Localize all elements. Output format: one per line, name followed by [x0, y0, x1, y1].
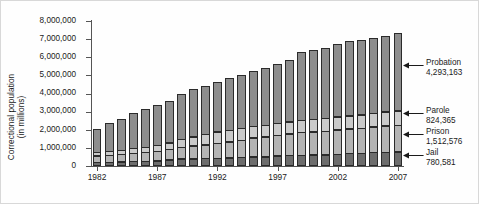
- y-tick-label: 1,000,000: [1, 144, 83, 152]
- bar-1986[interactable]: [141, 110, 150, 166]
- y-tick-label: 0: [1, 162, 83, 170]
- bar-segment-probation: [261, 68, 270, 125]
- bar-segment-parole: [237, 128, 246, 141]
- bar-1997[interactable]: [273, 64, 282, 166]
- bar-segment-parole: [273, 123, 282, 136]
- bar-segment-probation: [285, 60, 294, 122]
- bar-segment-prison: [333, 130, 342, 155]
- bar-1998[interactable]: [285, 61, 294, 166]
- bar-segment-jail: [381, 152, 390, 166]
- bar-segment-parole: [297, 120, 306, 133]
- bar-segment-prison: [225, 142, 234, 158]
- x-tick-mark: [278, 167, 279, 171]
- bar-segment-jail: [249, 157, 258, 166]
- bar-segment-jail: [105, 162, 114, 166]
- bar-segment-jail: [93, 162, 102, 166]
- bar-segment-parole: [201, 134, 210, 145]
- bar-1983[interactable]: [105, 124, 114, 166]
- bar-segment-jail: [237, 157, 246, 166]
- bar-1993[interactable]: [225, 79, 234, 166]
- bar-segment-probation: [141, 109, 150, 147]
- bar-segment-jail: [345, 153, 354, 166]
- bar-1992[interactable]: [213, 82, 222, 166]
- bar-segment-jail: [225, 158, 234, 166]
- bar-segment-parole: [357, 115, 366, 129]
- x-tick-mark: [338, 167, 339, 171]
- bar-segment-prison: [381, 126, 390, 153]
- bar-segment-prison: [261, 137, 270, 157]
- annotation-arrow-parole: [403, 110, 424, 117]
- bar-segment-parole: [261, 125, 270, 137]
- bar-segment-jail: [165, 160, 174, 166]
- bar-segment-jail: [129, 161, 138, 166]
- annotation-prison: Prison1,512,576: [426, 127, 462, 146]
- bar-segment-probation: [273, 64, 282, 124]
- bar-1990[interactable]: [189, 90, 198, 166]
- bar-2006[interactable]: [381, 36, 390, 166]
- bar-segment-parole: [394, 111, 403, 126]
- bar-segment-prison: [249, 138, 258, 158]
- bar-segment-probation: [189, 89, 198, 137]
- bar-segment-probation: [369, 38, 378, 113]
- bar-segment-prison: [165, 149, 174, 160]
- y-tick-label: 3,000,000: [1, 107, 83, 115]
- bar-segment-probation: [153, 105, 162, 146]
- annotation-name: Parole: [426, 106, 456, 116]
- bar-segment-parole: [321, 118, 330, 131]
- bar-segment-jail: [141, 161, 150, 166]
- annotation-name: Prison: [426, 127, 462, 137]
- bar-segment-jail: [394, 152, 403, 166]
- y-tick-label: 8,000,000: [1, 17, 83, 25]
- bar-segment-prison: [309, 132, 318, 156]
- bar-2003[interactable]: [345, 42, 354, 166]
- annotation-probation: Probation4,293,163: [426, 58, 462, 77]
- bar-segment-parole: [249, 126, 258, 138]
- bar-1991[interactable]: [201, 86, 210, 166]
- x-tick-mark: [398, 167, 399, 171]
- bar-segment-jail: [213, 158, 222, 166]
- bar-segment-parole: [285, 122, 294, 135]
- bar-segment-jail: [177, 159, 186, 166]
- bar-segment-probation: [381, 36, 390, 113]
- bar-segment-probation: [165, 101, 174, 144]
- bar-1995[interactable]: [249, 72, 258, 166]
- bar-segment-parole: [225, 130, 234, 142]
- bar-2005[interactable]: [369, 39, 378, 166]
- bar-1987[interactable]: [153, 106, 162, 166]
- bar-series-group: [91, 21, 404, 166]
- bar-1984[interactable]: [117, 120, 126, 166]
- bar-2000[interactable]: [309, 51, 318, 166]
- bar-segment-prison: [297, 132, 306, 155]
- bar-segment-probation: [309, 50, 318, 119]
- y-tick-label: 5,000,000: [1, 71, 83, 79]
- bar-1989[interactable]: [177, 95, 186, 166]
- y-tick-label: 2,000,000: [1, 126, 83, 134]
- x-axis-line: [91, 166, 404, 167]
- bar-segment-prison: [201, 145, 210, 159]
- bar-2001[interactable]: [321, 48, 330, 166]
- bar-segment-prison: [213, 143, 222, 158]
- bar-1994[interactable]: [237, 75, 246, 166]
- bar-segment-parole: [333, 117, 342, 131]
- bar-2007[interactable]: [394, 34, 403, 166]
- bar-1999[interactable]: [297, 53, 306, 166]
- bar-2002[interactable]: [333, 45, 342, 166]
- bar-segment-parole: [309, 119, 318, 132]
- x-tick-mark: [157, 167, 158, 171]
- bar-segment-probation: [394, 33, 403, 111]
- bar-1996[interactable]: [261, 69, 270, 166]
- annotation-name: Probation: [426, 58, 462, 68]
- bar-1985[interactable]: [129, 114, 138, 166]
- annotation-value: 4,293,163: [426, 68, 462, 78]
- bar-1988[interactable]: [165, 101, 174, 166]
- bar-segment-probation: [345, 41, 354, 116]
- bar-segment-probation: [237, 75, 246, 129]
- bar-segment-jail: [273, 156, 282, 166]
- bar-segment-jail: [309, 155, 318, 166]
- bar-2004[interactable]: [357, 41, 366, 166]
- bar-1982[interactable]: [93, 129, 102, 166]
- y-tick-label: 4,000,000: [1, 89, 83, 97]
- bar-segment-parole: [369, 113, 378, 127]
- bar-segment-probation: [201, 86, 210, 135]
- annotation-value: 824,365: [426, 116, 456, 126]
